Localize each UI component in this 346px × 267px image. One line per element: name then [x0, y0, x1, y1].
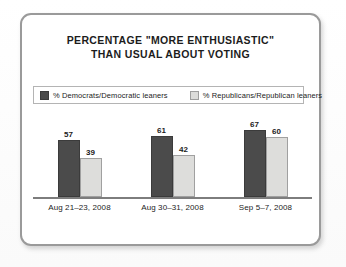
bar [151, 136, 173, 197]
bar-value-label: 57 [58, 130, 80, 139]
bar [266, 137, 288, 197]
bar [173, 155, 195, 197]
bar-group: 6142 [126, 125, 219, 197]
legend-item-republicans: % Republicans/Republican leaners [190, 87, 323, 103]
bar-column: 61 [151, 125, 173, 197]
x-axis-label: Aug 21–23, 2008 [33, 203, 126, 212]
bar-value-label: 60 [266, 127, 288, 136]
chart-title-line-1: PERCENTAGE "MORE ENTHUSIASTIC" [22, 33, 319, 47]
bar-groups: 573961426760 [33, 125, 312, 197]
bar-value-label: 61 [151, 126, 173, 135]
chart-card: PERCENTAGE "MORE ENTHUSIASTIC" THAN USUA… [20, 13, 321, 246]
bar-column: 57 [58, 125, 80, 197]
x-axis-label: Aug 30–31, 2008 [126, 203, 219, 212]
bar-value-label: 39 [80, 148, 102, 157]
bar-group: 5739 [33, 125, 126, 197]
legend-label-democrats: % Democrats/Democratic leaners [53, 91, 168, 100]
bar-group: 6760 [219, 125, 312, 197]
bar [58, 140, 80, 197]
bar-column: 39 [80, 125, 102, 197]
bar-value-label: 42 [173, 145, 195, 154]
bar [80, 158, 102, 197]
x-axis-baseline [33, 197, 312, 199]
legend-label-republicans: % Republicans/Republican leaners [203, 91, 323, 100]
legend-item-democrats: % Democrats/Democratic leaners [40, 87, 168, 103]
plot-area: 573961426760 [33, 125, 312, 197]
chart-title-line-2: THAN USUAL ABOUT VOTING [22, 47, 319, 61]
bar [244, 130, 266, 197]
x-axis-label: Sep 5–7, 2008 [219, 203, 312, 212]
chart-legend: % Democrats/Democratic leaners % Republi… [33, 86, 304, 104]
bar-value-label: 67 [244, 120, 266, 129]
bar-column: 42 [173, 125, 195, 197]
bar-column: 67 [244, 125, 266, 197]
legend-swatch-democrats-icon [40, 91, 49, 100]
chart-screenshot: PERCENTAGE "MORE ENTHUSIASTIC" THAN USUA… [0, 0, 346, 267]
x-axis-labels: Aug 21–23, 2008Aug 30–31, 2008Sep 5–7, 2… [33, 203, 312, 212]
bar-column: 60 [266, 125, 288, 197]
chart-title: PERCENTAGE "MORE ENTHUSIASTIC" THAN USUA… [22, 33, 319, 61]
legend-swatch-republicans-icon [190, 91, 199, 100]
